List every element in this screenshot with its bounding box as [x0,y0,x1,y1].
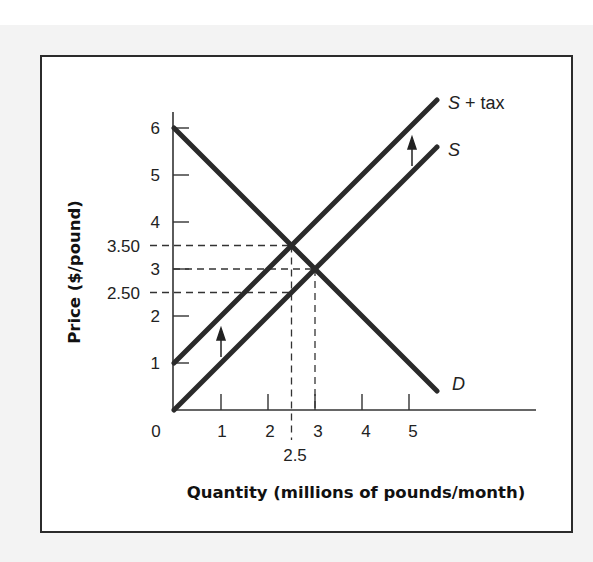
curve-label-s: S [448,140,460,160]
axes [173,112,536,410]
demand-curve [174,128,437,391]
y-tick-label: 3 [151,260,160,279]
x-tick-labels: 0 1 2 3 4 5 2.5 [151,422,417,465]
curves [174,100,437,410]
x-special-label-25: 2.5 [283,446,307,465]
arrow-up-icon [408,137,416,166]
curve-labels: S + tax S D [448,93,505,394]
supply-demand-chart: 1 2 3 4 5 6 3.50 2.50 0 1 2 3 4 5 2.5 S … [0,0,593,562]
x-origin-label: 0 [151,422,160,441]
y-axis-title: Price ($/pound) [65,200,84,344]
y-tick-label: 5 [151,166,160,185]
x-axis-title: Quantity (millions of pounds/month) [187,483,526,502]
y-tick-label: 6 [151,119,160,138]
x-tick-label: 2 [265,422,274,441]
supply-plus-tax-curve [174,100,437,363]
x-tick-label: 3 [313,422,322,441]
x-tick-label: 5 [408,422,417,441]
x-tick-label: 1 [217,422,226,441]
shift-arrows [217,137,416,357]
y-tick-label: 2 [151,307,160,326]
curve-label-d: D [452,374,465,394]
y-tick-label: 4 [151,213,160,232]
y-special-label-250: 2.50 [107,284,140,303]
curve-label-s-tax: S + tax [448,93,505,113]
x-tick-label: 4 [361,422,370,441]
y-special-label-350: 3.50 [107,237,140,256]
arrow-up-icon [217,328,225,357]
supply-curve [174,147,437,410]
y-tick-label: 1 [151,354,160,373]
